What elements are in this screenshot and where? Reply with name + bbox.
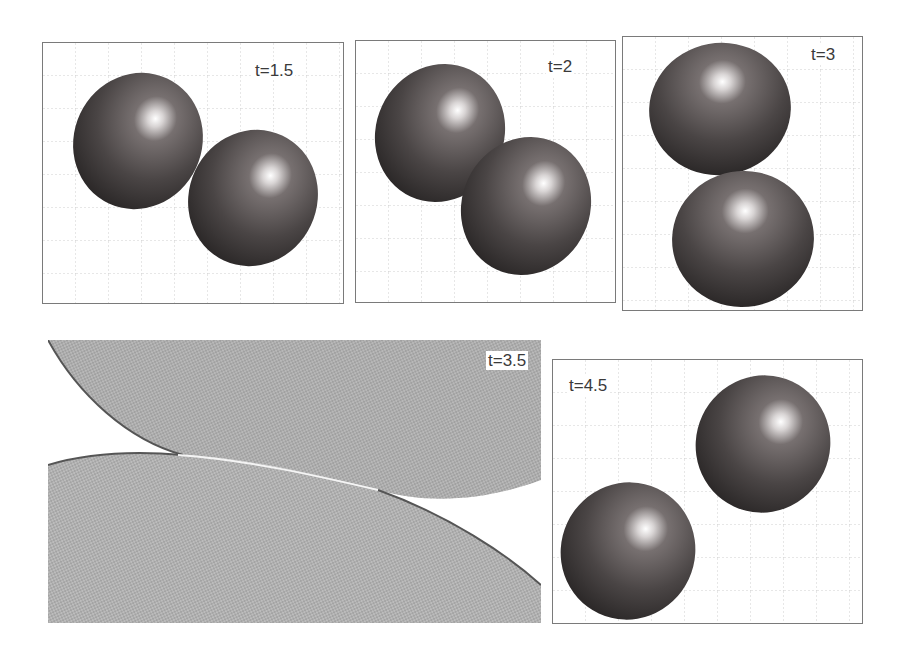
drops-plot <box>553 360 863 624</box>
time-label: t=2 <box>546 57 574 76</box>
panel-t3: t=3 <box>622 36 863 311</box>
time-label: t=3 <box>809 45 837 64</box>
drops-plot <box>623 37 863 311</box>
drops-plot <box>356 41 616 303</box>
panel-t2: t=2 <box>355 40 616 303</box>
mesh-closeup <box>48 340 541 623</box>
time-label: t=3.5 <box>486 351 528 370</box>
panel-t4-5: t=4.5 <box>552 359 863 624</box>
time-label: t=4.5 <box>567 376 609 395</box>
time-label: t=1.5 <box>253 61 295 80</box>
panel-t3-5-mesh: t=3.5 <box>48 340 541 623</box>
drops-plot <box>43 43 344 304</box>
panel-t1-5: t=1.5 <box>42 42 344 304</box>
